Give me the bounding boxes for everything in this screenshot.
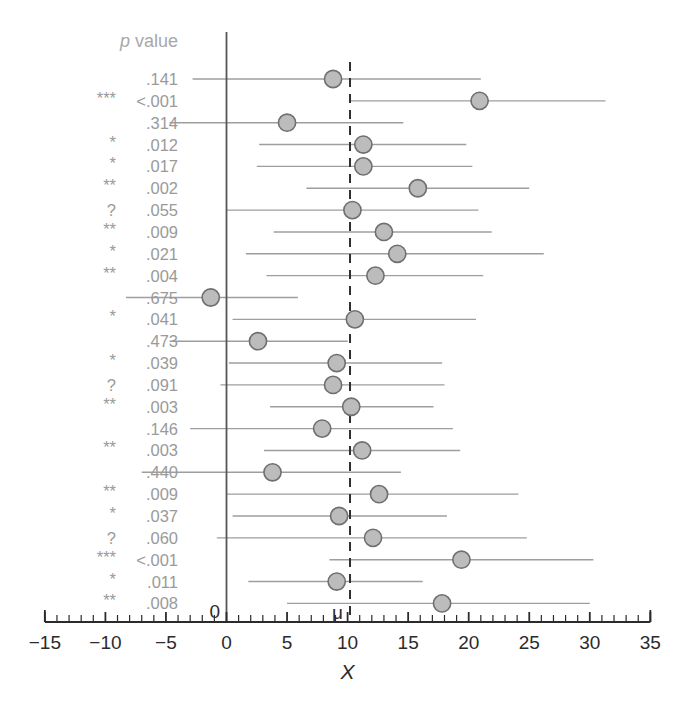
significance-stars: **	[103, 395, 116, 413]
significance-stars: **	[103, 220, 116, 238]
significance-stars: **	[103, 482, 116, 500]
zero-annotation: 0	[210, 601, 221, 622]
significance-stars: *	[110, 242, 117, 260]
x-tick-label: −10	[89, 632, 121, 653]
x-tick-label: 25	[519, 632, 540, 653]
estimate-dot	[264, 464, 281, 481]
significance-stars: *	[110, 307, 117, 325]
pvalue-label: .009	[146, 223, 178, 241]
pvalue-label: .037	[146, 507, 178, 525]
significance-stars: ***	[97, 89, 117, 107]
pvalue-label: .008	[146, 594, 178, 612]
pvalue-label: .440	[146, 463, 178, 481]
x-tick-label: 20	[458, 632, 479, 653]
significance-stars: **	[103, 438, 116, 456]
pvalue-label: .091	[146, 376, 178, 394]
pvalue-label: .003	[146, 398, 178, 416]
pvalue-label: .039	[146, 354, 178, 372]
x-axis: −15−10−505101520253035X	[29, 610, 661, 683]
significance-stars: ?	[107, 201, 116, 219]
significance-stars: *	[110, 570, 117, 588]
estimate-dot	[328, 354, 345, 371]
estimate-dot	[453, 551, 470, 568]
pvalue-label: .004	[146, 267, 178, 285]
x-tick-label: −5	[155, 632, 177, 653]
estimate-dot	[343, 398, 360, 415]
pvalue-label: .060	[146, 529, 178, 547]
pvalue-label: .146	[146, 420, 178, 438]
pvalue-labels: .141<.001***.314.012*.017*.002**.055?.00…	[97, 70, 178, 612]
x-tick-label: −15	[29, 632, 61, 653]
estimate-dot	[370, 486, 387, 503]
pvalue-label: .314	[146, 114, 178, 132]
significance-stars: *	[110, 133, 117, 151]
estimate-dot	[202, 289, 219, 306]
pvalue-label: .003	[146, 441, 178, 459]
estimate-dot	[331, 507, 348, 524]
pvalue-label: .473	[146, 332, 178, 350]
estimate-dot	[364, 529, 381, 546]
estimate-dot	[355, 136, 372, 153]
pvalue-label: .675	[146, 289, 178, 307]
estimate-dot	[324, 70, 341, 87]
x-tick-label: 35	[640, 632, 661, 653]
forest-plot: p value .141<.001***.314.012*.017*.002**…	[0, 0, 680, 701]
pvalue-label: <.001	[136, 92, 178, 110]
pvalue-header-text: p value	[119, 31, 178, 51]
estimate-dot	[346, 311, 363, 328]
significance-stars: ?	[107, 376, 116, 394]
estimate-dot	[278, 114, 295, 131]
mu-annotation: μ	[332, 602, 343, 623]
significance-stars: **	[103, 176, 116, 194]
x-tick-label: 30	[579, 632, 600, 653]
pvalue-label: .055	[146, 201, 178, 219]
pvalue-label: .009	[146, 485, 178, 503]
pvalue-label: .012	[146, 136, 178, 154]
estimate-dot	[355, 158, 372, 175]
pvalue-label: .002	[146, 179, 178, 197]
estimate-dot	[314, 420, 331, 437]
estimate-dot	[324, 376, 341, 393]
significance-stars: **	[103, 591, 116, 609]
estimate-dot	[375, 223, 392, 240]
estimate-dot	[433, 595, 450, 612]
pvalue-label: .021	[146, 245, 178, 263]
x-tick-label: 10	[337, 632, 358, 653]
x-tick-label: 5	[282, 632, 293, 653]
estimate-dot	[354, 442, 371, 459]
significance-stars: *	[110, 154, 117, 172]
significance-stars: *	[110, 351, 117, 369]
x-axis-title: X	[340, 660, 356, 683]
pvalue-label: <.001	[136, 551, 178, 569]
estimate-dot	[471, 92, 488, 109]
significance-stars: *	[110, 504, 117, 522]
pvalue-column-header: p value	[119, 31, 178, 51]
pvalue-label: .041	[146, 310, 178, 328]
estimate-dot	[249, 333, 266, 350]
significance-stars: **	[103, 264, 116, 282]
pvalue-label: .141	[146, 70, 178, 88]
x-tick-label: 15	[398, 632, 419, 653]
pvalue-label: .011	[147, 573, 178, 591]
estimate-dot	[328, 573, 345, 590]
significance-stars: ?	[107, 529, 116, 547]
estimate-dot	[389, 245, 406, 262]
estimate-dot	[367, 267, 384, 284]
estimate-dot	[409, 180, 426, 197]
pvalue-label: .017	[146, 157, 178, 175]
significance-stars: ***	[97, 548, 117, 566]
x-tick-label: 0	[221, 632, 232, 653]
estimate-dot	[344, 202, 361, 219]
